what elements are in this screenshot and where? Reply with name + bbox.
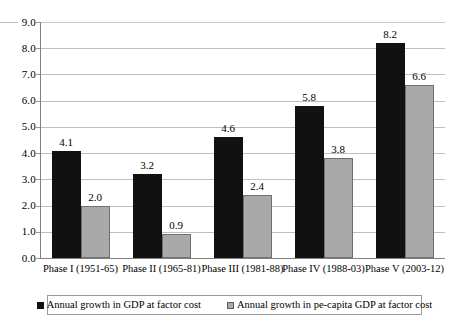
y-tick-label: 6.0 xyxy=(2,95,36,106)
bar-value-label: 2.4 xyxy=(239,181,276,192)
bar-value-label: 4.6 xyxy=(210,123,247,134)
bar-1-2 xyxy=(243,195,272,258)
y-tick-label: 8.0 xyxy=(2,43,36,54)
x-axis-category-label: Phase I (1951-65) xyxy=(36,262,125,275)
y-tick-mark xyxy=(36,258,40,259)
bar-value-label: 3.8 xyxy=(320,144,357,155)
bar-value-label: 0.9 xyxy=(158,220,195,231)
bar-value-label: 5.8 xyxy=(291,92,328,103)
bar-value-label: 2.0 xyxy=(77,192,114,203)
x-axis-category-label: Phase III (1981-88) xyxy=(198,262,287,275)
x-axis-labels: Phase I (1951-65)Phase II (1965-81)Phase… xyxy=(40,262,445,280)
bar-1-3 xyxy=(324,158,353,258)
bars-layer: 4.12.03.20.94.62.45.83.88.26.6 xyxy=(40,22,445,258)
bar-value-label: 3.2 xyxy=(129,160,166,171)
legend-item-label: Annual growth in GDP at factor cost xyxy=(47,299,201,311)
chart-legend: Annual growth in GDP at factor costAnnua… xyxy=(47,295,422,315)
bar-group: 4.12.0 xyxy=(40,22,121,258)
bar-group: 8.26.6 xyxy=(364,22,445,258)
bar-1-0 xyxy=(81,206,110,258)
y-tick-label: 7.0 xyxy=(2,69,36,80)
y-axis-ticks: 0.01.02.03.04.05.06.07.08.09.0 xyxy=(0,0,36,325)
legend-item-label: Annual growth in pe-capita GDP at factor… xyxy=(237,299,432,311)
bar-value-label: 6.6 xyxy=(401,71,438,82)
y-tick-label: 3.0 xyxy=(2,174,36,185)
bar-value-label: 8.2 xyxy=(372,29,409,40)
bar-1-4 xyxy=(405,85,434,258)
bar-1-1 xyxy=(162,234,191,258)
y-tick-label: 2.0 xyxy=(2,200,36,211)
x-axis-line xyxy=(40,258,445,259)
bar-0-0 xyxy=(52,151,81,259)
x-axis-category-label: Phase V (2003-12) xyxy=(360,262,449,275)
bar-value-label: 4.1 xyxy=(48,137,85,148)
bar-chart: 0.01.02.03.04.05.06.07.08.09.0 4.12.03.2… xyxy=(0,0,457,325)
x-axis-category-label: Phase IV (1988-03) xyxy=(279,262,368,275)
legend-item: Annual growth in GDP at factor cost xyxy=(37,299,201,311)
legend-item: Annual growth in pe-capita GDP at factor… xyxy=(227,299,432,311)
y-tick-label: 1.0 xyxy=(2,226,36,237)
y-tick-label: 0.0 xyxy=(2,253,36,264)
y-tick-label: 5.0 xyxy=(2,121,36,132)
y-tick-label: 4.0 xyxy=(2,148,36,159)
x-axis-category-label: Phase II (1965-81) xyxy=(117,262,206,275)
bar-group: 4.62.4 xyxy=(202,22,283,258)
gray-square-swatch xyxy=(227,302,234,309)
bar-0-1 xyxy=(133,174,162,258)
y-tick-label: 9.0 xyxy=(2,17,36,28)
bar-group: 5.83.8 xyxy=(283,22,364,258)
bar-group: 3.20.9 xyxy=(121,22,202,258)
black-square-swatch xyxy=(37,302,44,309)
bar-0-2 xyxy=(214,137,243,258)
bar-0-3 xyxy=(295,106,324,258)
